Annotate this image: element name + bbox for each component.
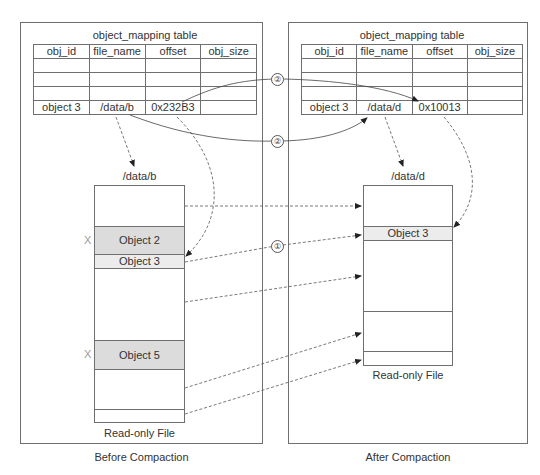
removed-x-mark-object-5: X [84,348,91,360]
cell-obj-id [302,59,357,73]
cell-file-name [89,87,145,101]
step-1-badge-copy: ① [271,240,284,253]
column-header-obj-size: obj_size [467,45,522,59]
cell-obj-id [302,87,357,101]
cell-obj-size [467,87,522,101]
cell-obj-id: object 3 [302,101,357,115]
cell-obj-size [201,87,257,101]
cell-obj-size [201,59,257,73]
after-object-mapping-table: obj_id file_name offset obj_size object … [301,44,523,115]
cell-file-name [89,59,145,73]
before-read-only-file: Object 2 Object 3 Object 5 [94,185,185,423]
before-object-mapping-table: obj_id file_name offset obj_size object … [33,44,257,115]
cell-file-name [357,73,412,87]
cell-file-name: /data/d [357,101,412,115]
cell-offset [145,73,201,87]
after-compaction-caption: After Compaction [288,451,528,463]
file-segment-divider [364,351,452,352]
column-header-file-name: file_name [357,45,412,59]
table-row [302,87,523,101]
before-file-name-label: /data/b [94,170,185,182]
after-table-title: object_mapping table [301,29,523,41]
table-row: object 3 /data/d 0x10013 [302,101,523,115]
cell-offset [412,59,467,73]
before-read-only-file-caption: Read-only File [84,427,195,439]
cell-offset [412,73,467,87]
cell-file-name [357,59,412,73]
table-row [34,59,257,73]
cell-obj-size [467,59,522,73]
column-header-obj-id: obj_id [302,45,357,59]
cell-offset [145,59,201,73]
table-row: object 3 /data/b 0x232B3 [34,101,257,115]
after-file-name-label: /data/d [363,170,453,182]
cell-obj-size [201,73,257,87]
object-5-block: Object 5 [95,340,184,370]
after-read-only-file-caption: Read-only File [353,369,463,381]
column-header-offset: offset [412,45,467,59]
table-row [302,73,523,87]
column-header-offset: offset [145,45,201,59]
table-row [34,87,257,101]
table-header-row: obj_id file_name offset obj_size [34,45,257,59]
cell-file-name [89,73,145,87]
cell-offset: 0x10013 [412,101,467,115]
removed-x-mark-object-2: X [84,234,91,246]
cell-offset: 0x232B3 [145,101,201,115]
cell-obj-size [467,101,522,115]
before-table-title: object_mapping table [33,29,257,41]
cell-obj-id [302,73,357,87]
cell-obj-id: object 3 [34,101,90,115]
cell-offset [145,87,201,101]
before-compaction-caption: Before Compaction [20,451,263,463]
table-header-row: obj_id file_name offset obj_size [302,45,523,59]
cell-file-name: /data/b [89,101,145,115]
table-row [302,59,523,73]
file-segment-divider [364,311,452,312]
column-header-file-name: file_name [89,45,145,59]
object-3-block: Object 3 [95,255,184,269]
cell-file-name [357,87,412,101]
cell-obj-id [34,73,90,87]
file-segment-divider [95,409,184,410]
step-2-badge-filename: ② [271,135,284,148]
cell-obj-id [34,59,90,73]
object-2-block: Object 2 [95,226,184,255]
object-3-block: Object 3 [364,226,452,241]
cell-obj-id [34,87,90,101]
cell-obj-size [467,73,522,87]
step-2-badge-offset: ② [271,73,284,86]
cell-offset [412,87,467,101]
table-row [34,73,257,87]
column-header-obj-id: obj_id [34,45,90,59]
column-header-obj-size: obj_size [201,45,257,59]
cell-obj-size [201,101,257,115]
after-read-only-file: Object 3 [363,185,453,366]
